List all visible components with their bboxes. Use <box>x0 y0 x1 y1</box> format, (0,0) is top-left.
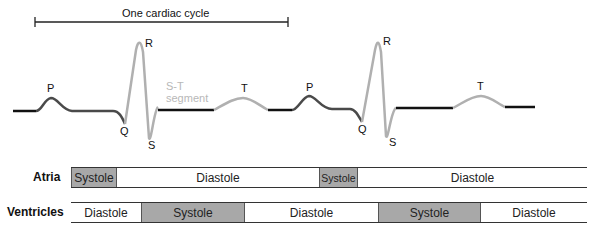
s-label-1: S <box>148 139 155 151</box>
t-wave-1 <box>214 98 268 110</box>
ventricles-systole-2: Systole <box>378 203 481 222</box>
t-wave-label-2: T <box>477 80 484 92</box>
r-label-2: R <box>383 35 391 47</box>
atria-label: Atria <box>33 170 60 184</box>
ventricles-label: Ventricles <box>7 205 64 219</box>
atria-systole-2: Systole <box>319 168 358 187</box>
st-label-line1: S-T <box>166 80 208 92</box>
t-wave-label-1: T <box>241 82 248 94</box>
ventricles-systole-1: Systole <box>141 203 245 222</box>
ventricles-diastole-2: Diastole <box>245 203 378 222</box>
ventricles-bar: Diastole Systole Diastole Systole Diasto… <box>71 202 587 223</box>
qrs-complex-2 <box>362 43 396 137</box>
ventricles-diastole-1: Diastole <box>71 203 141 222</box>
st-label-line2: segment <box>166 92 208 104</box>
r-label-1: R <box>145 37 153 49</box>
p-wave-label-1: P <box>47 82 54 94</box>
q-label-1: Q <box>120 125 129 137</box>
ventricles-diastole-3: Diastole <box>481 203 587 222</box>
cycle-label: One cardiac cycle <box>122 7 209 19</box>
qrs-complex-1 <box>125 43 158 139</box>
p-wave-label-2: P <box>306 81 313 93</box>
ecg-trace <box>0 0 593 160</box>
st-segment-label: S-T segment <box>166 80 208 104</box>
p-wave-2 <box>292 96 362 122</box>
atria-diastole-1: Diastole <box>117 168 319 187</box>
s-label-2: S <box>389 136 396 148</box>
atria-systole-1: Systole <box>71 168 117 187</box>
p-wave-1 <box>36 98 125 124</box>
atria-bar: Systole Diastole Systole Diastole <box>71 167 587 188</box>
q-label-2: Q <box>358 123 367 135</box>
t-wave-2 <box>453 96 505 108</box>
atria-diastole-2: Diastole <box>358 168 587 187</box>
